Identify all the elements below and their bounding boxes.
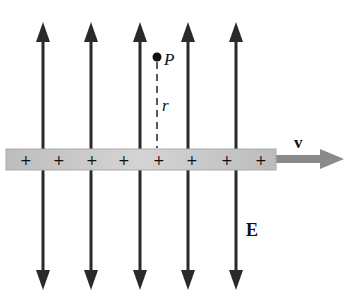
point-p-marker: [153, 53, 162, 149]
plus-charge-icon: +: [153, 152, 165, 168]
plus-charge-icon: +: [86, 152, 98, 168]
point-dot-icon: [153, 53, 162, 62]
arrow-up-icon: [36, 22, 50, 42]
velocity-arrow: [270, 149, 344, 169]
arrow-down-icon: [229, 270, 243, 290]
point-label: P: [163, 50, 174, 69]
arrow-up-icon: [181, 22, 195, 42]
plus-charge-icon: +: [53, 152, 65, 168]
plus-charge-icon: +: [186, 152, 198, 168]
arrow-down-icon: [181, 270, 195, 290]
arrow-down-icon: [84, 270, 98, 290]
plus-charge-icon: +: [255, 152, 267, 168]
moving-charged-rod-diagram: P r v + + + + + + + + E: [0, 0, 359, 306]
plus-charge-icon: +: [118, 152, 130, 168]
arrow-up-icon: [84, 22, 98, 42]
arrow-up-icon: [229, 22, 243, 42]
charged-rod: + + + + + + + +: [6, 149, 276, 170]
plus-charge-icon: +: [20, 152, 32, 168]
velocity-label: v: [294, 133, 303, 152]
arrow-down-icon: [133, 270, 147, 290]
arrow-up-icon: [133, 22, 147, 42]
distance-label: r: [162, 96, 169, 115]
arrow-down-icon: [36, 270, 50, 290]
plus-charge-icon: +: [221, 152, 233, 168]
arrow-right-icon: [320, 149, 344, 169]
field-label: E: [246, 220, 258, 240]
